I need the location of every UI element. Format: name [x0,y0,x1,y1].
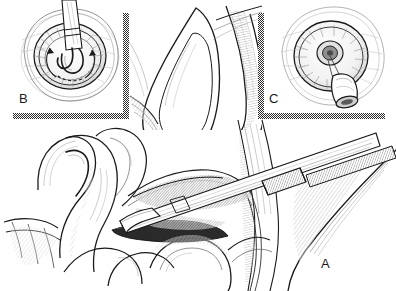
divider-left-vertical [123,13,129,119]
panel-a-upper-artwork [128,6,264,158]
illustration-canvas [0,0,396,291]
panel-c-artwork [281,7,384,110]
panel-label-a: A [321,257,330,270]
divider-left-horizontal [13,113,129,119]
panel-label-b: B [19,92,28,105]
figure-root: B C A [0,0,396,291]
panel-a-artwork [4,120,396,291]
divider-right-horizontal [258,113,385,119]
panel-label-c: C [269,92,279,105]
divider-right-vertical [258,13,264,119]
panel-b-artwork [21,0,119,101]
